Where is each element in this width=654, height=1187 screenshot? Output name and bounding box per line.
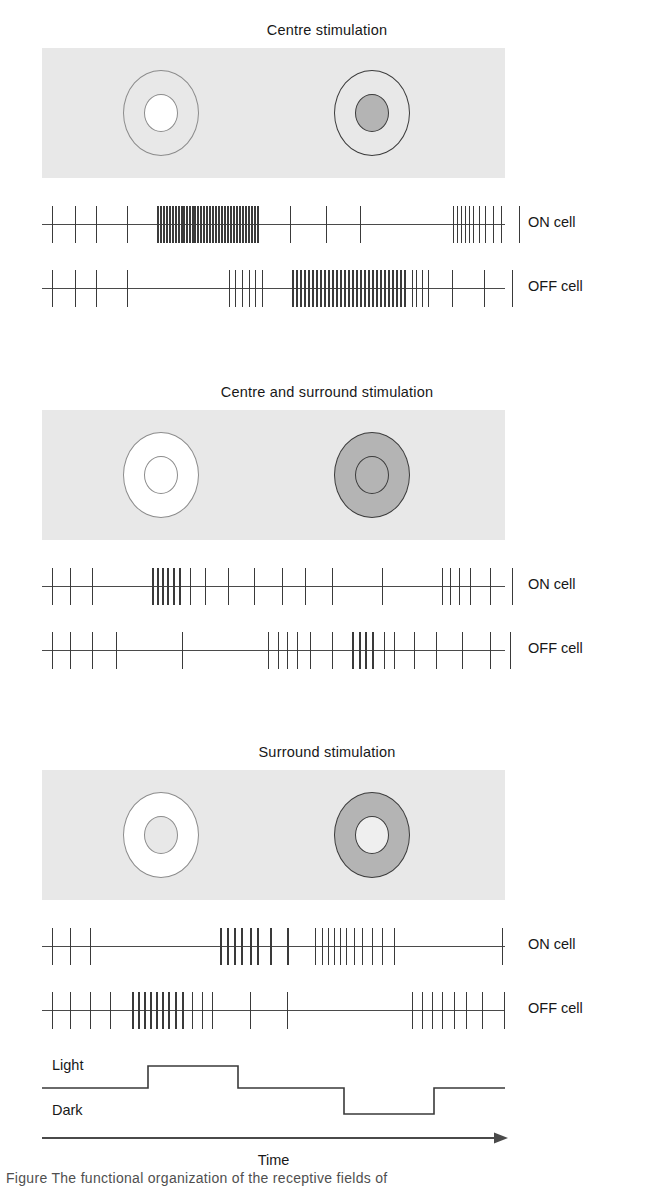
spike-mark xyxy=(218,206,220,243)
spike-mark xyxy=(454,992,455,1029)
spike-mark xyxy=(200,206,202,243)
panel-title: Centre and surround stimulation xyxy=(0,382,654,402)
spike-mark xyxy=(52,568,53,605)
spike-mark xyxy=(52,992,53,1029)
spike-mark xyxy=(221,206,223,243)
spike-mark xyxy=(70,992,71,1029)
spike-mark xyxy=(308,270,310,307)
spike-mark xyxy=(239,206,241,243)
spike-mark xyxy=(173,568,175,605)
spike-mark xyxy=(186,206,188,243)
spike-mark xyxy=(493,206,494,243)
spike-mark xyxy=(322,928,323,965)
light-level-label: Light xyxy=(52,1057,83,1073)
spike-mark xyxy=(470,568,471,605)
receptive-field-centre xyxy=(144,456,178,494)
spike-mark xyxy=(485,206,486,243)
spike-mark xyxy=(242,270,243,307)
stimulus-field xyxy=(42,48,505,178)
spike-mark xyxy=(490,632,491,669)
spike-mark xyxy=(382,928,383,965)
spike-mark xyxy=(52,270,53,307)
spike-mark xyxy=(268,632,269,669)
receptive-field-centre xyxy=(355,816,389,854)
spike-mark xyxy=(236,206,238,243)
spike-mark xyxy=(432,992,433,1029)
spike-mark xyxy=(212,992,213,1029)
spike-mark xyxy=(512,270,513,307)
spike-mark xyxy=(251,206,253,243)
stimulus-timing-trace: LightDark xyxy=(42,1054,512,1150)
spike-mark xyxy=(262,270,263,307)
spike-mark xyxy=(182,632,183,669)
spike-mark xyxy=(512,568,513,605)
spike-mark xyxy=(416,270,417,307)
spike-train-baseline xyxy=(42,586,505,587)
stimulus-field xyxy=(42,770,505,900)
spike-mark xyxy=(422,992,423,1029)
spike-mark xyxy=(465,206,466,243)
spike-mark xyxy=(388,270,390,307)
spike-mark xyxy=(248,206,250,243)
spike-mark xyxy=(70,928,71,965)
spike-mark xyxy=(257,206,259,243)
spike-mark xyxy=(92,632,93,669)
spike-mark xyxy=(168,992,170,1029)
spike-train-off-cell xyxy=(42,266,512,312)
spike-mark xyxy=(254,206,256,243)
spike-mark xyxy=(404,270,406,307)
spike-mark xyxy=(235,270,236,307)
spike-mark xyxy=(344,270,346,307)
spike-mark xyxy=(183,206,185,243)
spike-mark xyxy=(501,206,502,243)
spike-mark xyxy=(422,270,423,307)
spike-mark xyxy=(287,632,288,669)
spike-train-label-off: OFF cell xyxy=(528,640,583,656)
spike-mark xyxy=(157,568,159,605)
spike-mark xyxy=(332,632,333,669)
spike-mark xyxy=(282,568,283,605)
spike-mark xyxy=(394,632,395,669)
spike-mark xyxy=(356,270,358,307)
spike-mark xyxy=(459,568,460,605)
spike-mark xyxy=(312,270,314,307)
spike-mark xyxy=(182,992,184,1029)
spike-mark xyxy=(157,206,159,243)
spike-mark xyxy=(52,206,53,243)
spike-mark xyxy=(163,206,165,243)
spike-mark xyxy=(75,270,76,307)
light-dark-step-waveform xyxy=(42,1066,505,1114)
spike-mark xyxy=(70,568,71,605)
spike-mark xyxy=(310,632,311,669)
spike-mark xyxy=(150,992,152,1029)
spike-mark xyxy=(172,206,174,243)
spike-mark xyxy=(336,270,338,307)
receptive-field-centre xyxy=(355,94,389,132)
spike-mark xyxy=(396,270,398,307)
spike-train-baseline xyxy=(42,288,505,289)
spike-mark xyxy=(304,270,306,307)
panel-title: Centre stimulation xyxy=(0,20,654,40)
spike-mark xyxy=(384,270,386,307)
spike-mark xyxy=(362,928,363,965)
spike-mark xyxy=(359,632,361,669)
spike-mark xyxy=(255,270,256,307)
spike-mark xyxy=(332,270,334,307)
spike-mark xyxy=(162,568,164,605)
spike-mark xyxy=(461,206,462,243)
spike-mark xyxy=(241,928,243,965)
figure-caption-text: Figure The functional organization of th… xyxy=(0,1172,654,1186)
spike-mark xyxy=(257,928,259,965)
spike-mark xyxy=(212,206,214,243)
spike-mark xyxy=(462,632,463,669)
spike-mark xyxy=(365,632,367,669)
spike-mark xyxy=(328,270,330,307)
spike-mark xyxy=(352,270,354,307)
spike-mark xyxy=(466,992,467,1029)
spike-mark xyxy=(194,206,196,243)
spike-mark xyxy=(380,270,382,307)
spike-mark xyxy=(197,206,199,243)
spike-mark xyxy=(110,992,111,1029)
spike-train-label-off: OFF cell xyxy=(528,278,583,294)
stimulus-panel-2: Centre and surround stimulationON cellOF… xyxy=(0,382,654,402)
